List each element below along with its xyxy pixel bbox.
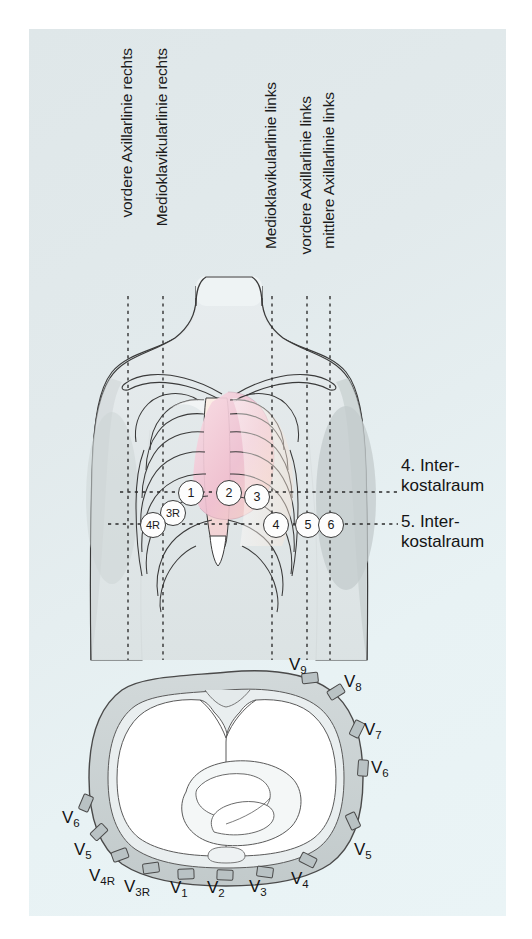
lead-label-base: V [344,672,355,691]
label-4-intercostal-space: 4. Inter- kostalraum [401,456,484,495]
electrode-marker-2: 2 [216,480,242,506]
label-medioklavikularlinie-rechts: Medioklavikularlinie rechts [153,48,171,226]
label-mittlere-axillarlinie-links: mittlere Axillarlinie links [320,92,338,249]
electrode-marker-label: 3R [166,507,180,519]
label-vordere-axillarlinie-rechts: vordere Axillarlinie rechts [118,48,136,218]
lead-label-base: V [207,878,218,897]
lead-label-base: V [170,878,181,897]
lead-label-subscript: 9 [300,664,306,676]
electrode-pad-v3r [142,862,159,874]
electrode-marker-4r: 4R [140,512,166,538]
lead-label-v3: V3 [249,877,267,898]
lead-label-subscript: 3 [260,886,266,898]
label-5-intercostal-space: 5. Inter- kostalraum [401,512,484,551]
electrode-marker-1: 1 [178,480,204,506]
electrode-marker-label: 2 [226,486,233,500]
lead-label-base: V [89,866,100,885]
lead-label-subscript: 5 [365,849,371,861]
lead-label-base: V [74,840,85,859]
lead-label-subscript: 8 [355,681,361,693]
lead-label-v9: V9 [289,655,307,676]
lead-label-subscript: 7 [375,729,381,741]
lead-label-subscript: 6 [382,767,388,779]
label-vordere-axillarlinie-links: vordere Axillarlinie links [297,96,315,255]
lead-label-subscript: 3R [135,886,150,898]
lead-label-subscript: 1 [181,887,187,899]
lead-label-v5: V5 [354,840,372,861]
ecg-electrode-figure: vordere Axillarlinie rechts Medioklaviku… [0,0,532,939]
lead-label-base: V [289,655,300,674]
electrode-marker-label: 5 [305,518,312,532]
lead-label-v2: V2 [207,878,225,899]
electrode-marker-3: 3 [244,484,270,510]
lead-label-base: V [291,869,302,888]
lead-label-v3r: V3R [124,877,150,898]
lead-label-v6: V6 [62,808,80,829]
electrode-marker-6: 6 [318,512,344,538]
lead-label-base: V [371,758,382,777]
thorax-cross-section [89,671,363,886]
ics4-line1: 4. Inter- [401,456,484,476]
ics5-line2: kostalraum [401,532,484,552]
label-medioklavikularlinie-links: Medioklavikularlinie links [262,82,280,249]
electrode-marker-label: 3 [254,490,261,504]
lead-label-v5: V5 [74,840,92,861]
lead-label-subscript: 5 [85,849,91,861]
electrode-marker-label: 4R [146,519,160,531]
electrode-marker-label: 4 [273,518,280,532]
lead-label-v4: V4 [291,869,309,890]
lead-label-subscript: 4R [100,875,115,887]
lead-label-subscript: 2 [218,887,224,899]
lead-label-subscript: 4 [302,878,308,890]
ics4-line2: kostalraum [401,476,484,496]
lead-label-v6: V6 [371,758,389,779]
lead-label-v7: V7 [364,720,382,741]
lead-label-base: V [62,808,73,827]
lead-label-base: V [249,877,260,896]
electrode-pad-v6 [357,760,368,777]
lead-label-v8: V8 [344,672,362,693]
lead-label-v1: V1 [170,878,188,899]
lead-label-base: V [364,720,375,739]
electrode-marker-4: 4 [263,512,289,538]
electrode-marker-label: 6 [328,518,335,532]
ics5-line1: 5. Inter- [401,512,484,532]
lead-label-v4r: V4R [89,866,115,887]
lead-label-base: V [354,840,365,859]
lead-label-base: V [124,877,135,896]
lead-label-subscript: 6 [73,817,79,829]
electrode-marker-label: 1 [188,486,195,500]
